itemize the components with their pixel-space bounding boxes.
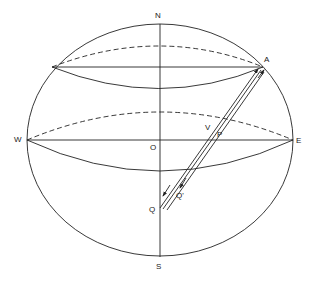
arrow-q xyxy=(163,185,170,196)
label-p: P xyxy=(217,131,222,139)
label-origin: O xyxy=(150,144,156,152)
sphere-diagram: N S W E O A Q Q' V P xyxy=(0,0,313,282)
label-v: V xyxy=(205,124,210,132)
vector-line-3 xyxy=(167,72,264,210)
label-q: Q xyxy=(149,206,155,214)
label-q-prime: Q' xyxy=(176,192,184,200)
label-east: E xyxy=(296,137,301,145)
label-north: N xyxy=(155,12,161,20)
vector-line-2 xyxy=(163,70,261,209)
vector-line-1 xyxy=(160,69,258,208)
label-west: W xyxy=(14,136,22,144)
latitude-front xyxy=(52,67,263,89)
label-a: A xyxy=(264,56,269,64)
label-south: S xyxy=(156,263,161,271)
latitude-back xyxy=(52,46,263,67)
sphere-drawing xyxy=(0,0,313,282)
